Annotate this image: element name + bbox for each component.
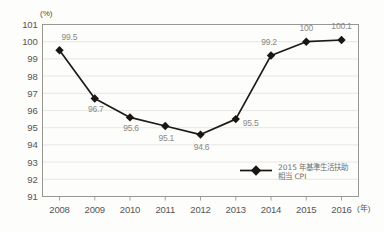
y-axis-tick-label: 99 xyxy=(27,53,37,64)
data-point-label: 99.2 xyxy=(261,37,277,47)
y-axis-tick-label: 91 xyxy=(27,191,37,202)
chart-svg: (%) 101100999897969594939291 20082009201… xyxy=(0,0,384,232)
data-point-label: 99.5 xyxy=(62,32,78,42)
legend-label-line2: 相当 CPI xyxy=(278,171,306,181)
x-axis-tick-label: 2011 xyxy=(155,204,175,215)
x-axis-tick-label: 2015 xyxy=(296,204,316,215)
y-axis-tick-label: 100 xyxy=(22,36,37,47)
data-point-label: 94.6 xyxy=(194,142,210,152)
x-axis-tick-label: 2016 xyxy=(331,204,351,215)
data-point-label: 100.1 xyxy=(331,21,352,31)
y-axis-tick-label: 97 xyxy=(27,88,37,99)
y-axis-tick-label: 94 xyxy=(27,139,37,150)
x-axis-tick-label: 2010 xyxy=(120,204,140,215)
y-axis-unit-label: (%) xyxy=(40,9,53,18)
x-axis-tick-labels: 200820092010201120122013201420152016 xyxy=(49,204,351,215)
y-axis-tick-label: 98 xyxy=(27,71,37,82)
x-axis-unit-label: (年) xyxy=(357,203,371,213)
y-axis-tick-label: 92 xyxy=(27,174,37,185)
data-point-label: 95.1 xyxy=(158,133,174,143)
x-axis-tick-label: 2013 xyxy=(226,204,246,215)
y-axis-tick-label: 93 xyxy=(27,157,37,168)
legend-label-line1: 2015 年基準生活扶助 xyxy=(278,162,348,172)
x-axis-tick-label: 2014 xyxy=(261,204,281,215)
y-axis-tick-label: 96 xyxy=(27,105,37,116)
y-axis-tick-label: 95 xyxy=(27,122,37,133)
chart-background xyxy=(0,0,384,232)
y-axis-tick-label: 101 xyxy=(22,19,37,30)
x-axis-tick-label: 2008 xyxy=(49,204,69,215)
x-axis-tick-label: 2012 xyxy=(190,204,210,215)
data-point-label: 95.5 xyxy=(243,118,259,128)
x-axis-tick-label: 2009 xyxy=(85,204,105,215)
data-point-label: 100 xyxy=(299,23,313,33)
line-chart: (%) 101100999897969594939291 20082009201… xyxy=(0,0,384,232)
data-point-label: 95.6 xyxy=(123,123,139,133)
data-point-label: 96.7 xyxy=(88,104,104,114)
